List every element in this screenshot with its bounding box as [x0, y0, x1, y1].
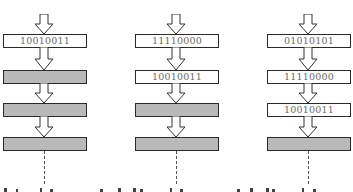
down-arrow-icon [298, 116, 318, 137]
register-slot-1: 01010101 [267, 34, 351, 48]
down-arrow-icon [166, 116, 186, 137]
continuation-dashed-line [44, 151, 45, 184]
down-arrow-icon [298, 83, 318, 103]
down-arrow-icon [166, 14, 186, 34]
down-arrow-icon [166, 47, 186, 70]
column-step-1: 10010011 [0, 0, 90, 192]
clipped-caption-fragments [0, 186, 353, 192]
down-arrow-icon [34, 83, 54, 103]
register-slot-4 [135, 137, 219, 151]
continuation-dashed-line [176, 151, 177, 184]
down-arrow-icon [34, 14, 54, 34]
register-slot-2 [3, 70, 87, 84]
continuation-dashed-line [308, 151, 309, 184]
register-slot-3 [3, 103, 87, 117]
register-slot-3 [135, 103, 219, 117]
register-slot-2: 11110000 [267, 70, 351, 84]
down-arrow-icon [166, 83, 186, 103]
register-slot-1: 11110000 [135, 34, 219, 48]
down-arrow-icon [298, 14, 318, 34]
down-arrow-icon [34, 47, 54, 70]
column-step-3: 01010101 11110000 10010011 [264, 0, 353, 192]
column-step-2: 11110000 10010011 [132, 0, 222, 192]
register-slot-4 [3, 137, 87, 151]
register-slot-2: 10010011 [135, 70, 219, 84]
down-arrow-icon [298, 47, 318, 70]
down-arrow-icon [34, 116, 54, 137]
register-slot-1: 10010011 [3, 34, 87, 48]
register-slot-3: 10010011 [267, 103, 351, 117]
register-slot-4 [267, 137, 351, 151]
